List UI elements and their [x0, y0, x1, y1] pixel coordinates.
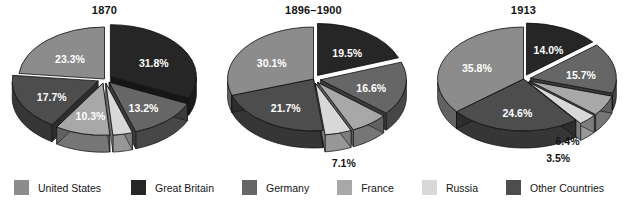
legend-item-label: United States	[38, 182, 101, 194]
legend-swatch-icon	[14, 180, 29, 195]
legend-item[interactable]: France	[337, 180, 394, 195]
legend-swatch-icon	[131, 180, 146, 195]
legend-item-label: Russia	[446, 182, 478, 194]
pie-chart-1913: 1913 14.0%15.7%6.4%3.5%24.6%35.8%	[419, 0, 628, 168]
legend-swatch-icon	[242, 180, 257, 195]
pie-svg-1896-1900: 19.5%16.6%7.1%5.0%21.7%30.1%	[209, 17, 418, 169]
slice-value-label: 24.6%	[503, 107, 533, 119]
slice-value-label: 19.5%	[332, 47, 362, 59]
pie-svg-1913: 14.0%15.7%6.4%3.5%24.6%35.8%	[419, 17, 628, 169]
legend: United StatesGreat BritainGermanyFranceR…	[0, 168, 628, 207]
slice-value-label: 7.1%	[332, 157, 357, 169]
chart-title: 1870	[0, 4, 209, 16]
slice-value-label: 16.6%	[356, 82, 386, 94]
slice-value-label: 15.7%	[566, 69, 596, 81]
slice-value-label: 21.7%	[271, 102, 301, 114]
slice-value-label: 10.3%	[76, 110, 106, 122]
legend-item-label: Germany	[266, 182, 309, 194]
legend-item[interactable]: Other Countries	[506, 180, 604, 195]
legend-item-label: Other Countries	[530, 182, 604, 194]
legend-swatch-icon	[337, 180, 352, 195]
slice-value-label: 23.3%	[55, 53, 85, 65]
legend-swatch-icon	[506, 180, 521, 195]
slice-value-label: 30.1%	[257, 57, 287, 69]
slice-value-label: 3.5%	[546, 152, 571, 164]
pie-svg-1870: 31.8%13.2%3.7%10.3%17.7%23.3%	[0, 17, 209, 169]
pie-chart-figure: 1870 31.8%13.2%3.7%10.3%17.7%23.3% 1896–…	[0, 0, 628, 207]
slice-value-label: 13.2%	[129, 102, 159, 114]
slice-value-label: 35.8%	[462, 62, 492, 74]
legend-item[interactable]: Great Britain	[131, 180, 214, 195]
slice-value-label: 17.7%	[37, 91, 67, 103]
pie-chart-1896-1900: 1896–1900 19.5%16.6%7.1%5.0%21.7%30.1%	[209, 0, 418, 168]
legend-item-label: France	[361, 182, 394, 194]
chart-title: 1896–1900	[209, 4, 418, 16]
legend-item[interactable]: United States	[14, 180, 101, 195]
slice-value-label: 14.0%	[534, 44, 564, 56]
legend-swatch-icon	[422, 180, 437, 195]
slice-value-label: 6.4%	[556, 135, 581, 147]
legend-item[interactable]: Russia	[422, 180, 478, 195]
chart-title: 1913	[419, 4, 628, 16]
slice-value-label: 31.8%	[139, 57, 169, 69]
legend-item-label: Great Britain	[155, 182, 214, 194]
legend-item[interactable]: Germany	[242, 180, 309, 195]
pie-chart-1870: 1870 31.8%13.2%3.7%10.3%17.7%23.3%	[0, 0, 209, 168]
